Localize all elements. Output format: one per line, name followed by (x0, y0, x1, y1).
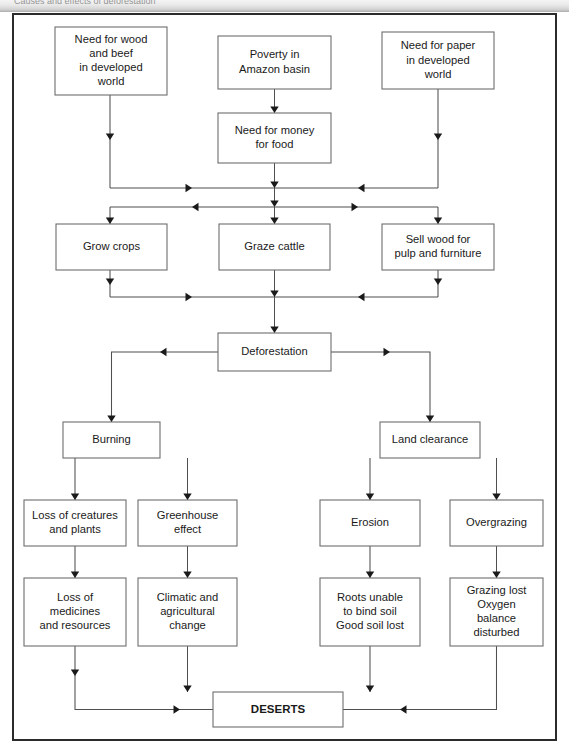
connector-line (75, 646, 213, 710)
node-need_paper[interactable]: Need for paperin developedworld (382, 32, 494, 89)
node-sell_wood[interactable]: Sell wood forpulp and furniture (382, 224, 494, 270)
arrowhead-down (270, 218, 278, 225)
node-label-graze_cattle: Graze cattle (244, 240, 304, 252)
node-burning[interactable]: Burning (63, 422, 160, 458)
arrowhead-down (492, 572, 500, 579)
node-grow_crops[interactable]: Grow crops (56, 224, 167, 270)
arrowhead-right (186, 184, 193, 192)
diagram-page: Causes and effects of deforestation Need… (0, 0, 569, 755)
node-poverty_amazon[interactable]: Poverty inAmazon basin (218, 36, 331, 89)
arrowhead-down (71, 670, 79, 677)
arrowhead-down (434, 134, 442, 141)
node-overgrazing[interactable]: Overgrazing (450, 500, 543, 546)
arrowhead-down (183, 572, 191, 579)
node-need_money_food[interactable]: Need for moneyfor food (218, 113, 331, 163)
node-label-land_clearance: Land clearance (392, 433, 469, 445)
node-label-overgrazing: Overgrazing (466, 516, 527, 528)
arrowhead-down (492, 494, 500, 501)
flowchart-canvas: Need for woodand beefin developedworldPo… (0, 0, 569, 755)
arrowhead-down (183, 494, 191, 501)
arrowhead-down (71, 572, 79, 579)
arrowhead-down (106, 134, 114, 141)
connector-line (343, 646, 497, 710)
node-loss_creatures[interactable]: Loss of creaturesand plants (24, 500, 126, 546)
node-label-burning: Burning (92, 433, 131, 445)
node-roots_unable[interactable]: Roots unableto bind soilGood soil lost (320, 578, 420, 646)
connector-line (331, 352, 430, 422)
node-label-grow_crops: Grow crops (83, 240, 141, 252)
arrowhead-down (366, 494, 374, 501)
arrowhead-down (270, 182, 278, 189)
node-land_clearance[interactable]: Land clearance (380, 422, 480, 458)
arrowhead-down (106, 279, 114, 286)
node-deforestation[interactable]: Deforestation (218, 333, 331, 371)
node-loss_medicines[interactable]: Loss ofmedicinesand resources (24, 578, 126, 646)
node-graze_cattle[interactable]: Graze cattle (219, 224, 330, 270)
arrowhead-left (192, 203, 199, 211)
node-climatic[interactable]: Climatic andagriculturalchange (138, 578, 237, 646)
node-label-erosion: Erosion (351, 516, 389, 528)
arrowhead-left (160, 348, 167, 356)
node-label-deforestation: Deforestation (241, 345, 308, 357)
node-label-deserts: DESERTS (251, 703, 306, 715)
node-need_wood_beef[interactable]: Need for woodand beefin developedworld (55, 27, 167, 95)
arrowhead-down (183, 686, 191, 693)
arrowhead-left (400, 705, 407, 713)
arrowhead-down (426, 416, 434, 423)
arrowhead-down (71, 494, 79, 501)
arrowhead-down (106, 218, 114, 225)
arrowhead-down (270, 201, 278, 208)
arrowhead-down (107, 416, 115, 423)
node-greenhouse[interactable]: Greenhouseeffect (138, 500, 237, 546)
arrowhead-right (174, 705, 181, 713)
connector-layer (71, 89, 501, 714)
node-layer: Need for woodand beefin developedworldPo… (24, 27, 543, 727)
arrowhead-down (366, 686, 374, 693)
arrowhead-down (270, 291, 278, 298)
arrowhead-left (358, 184, 365, 192)
arrowhead-down (434, 218, 442, 225)
node-label-roots_unable: Roots unableto bind soilGood soil lost (336, 591, 405, 631)
node-grazing_lost[interactable]: Grazing lostOxygenbalancedisturbed (450, 578, 543, 646)
arrowhead-right (186, 293, 193, 301)
arrowhead-down (270, 327, 278, 334)
node-deserts[interactable]: DESERTS (213, 692, 343, 727)
arrowhead-down (270, 107, 278, 114)
arrowhead-down (366, 572, 374, 579)
arrowhead-down (434, 279, 442, 286)
arrowhead-right (352, 203, 359, 211)
connector-line (112, 352, 219, 422)
arrowhead-right (384, 348, 391, 356)
node-erosion[interactable]: Erosion (320, 500, 420, 546)
arrowhead-left (358, 293, 365, 301)
